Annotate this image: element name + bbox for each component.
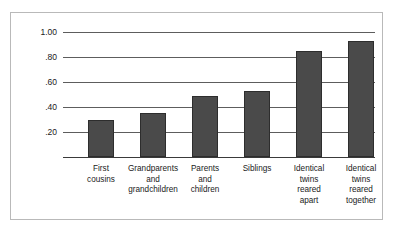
x-tick-line: children bbox=[174, 185, 236, 196]
bar-siblings bbox=[244, 91, 270, 157]
gridline-4 bbox=[63, 107, 375, 108]
y-tick-label-3: .60 bbox=[0, 78, 57, 87]
x-tick-line: and bbox=[174, 175, 236, 186]
bar-first-cousins bbox=[88, 120, 114, 158]
plot-area: 1.00 .80 .60 .40 .20 First cousins Grand… bbox=[63, 32, 375, 157]
x-tick-line: together bbox=[330, 196, 392, 207]
x-tick-line: twins bbox=[330, 175, 392, 186]
chart-figure: Correlation in I.Q. 1.00 .80 .60 .40 .20… bbox=[0, 0, 394, 233]
y-tick-label-1: 1.00 bbox=[0, 28, 57, 37]
x-tick-label-identical-twins-reared-together: Identical twins reared together bbox=[330, 164, 392, 206]
bar-grandparents-and-grandchildren bbox=[140, 113, 166, 157]
x-axis-baseline bbox=[63, 157, 375, 158]
x-tick-line: Identical bbox=[330, 164, 392, 175]
y-tick-label-2: .80 bbox=[0, 53, 57, 62]
bar-identical-twins-reared-together bbox=[348, 41, 374, 157]
bar-parents-and-children bbox=[192, 96, 218, 157]
x-tick-line: reared bbox=[330, 185, 392, 196]
gridline-1 bbox=[63, 32, 375, 33]
gridline-3 bbox=[63, 82, 375, 83]
gridline-2 bbox=[63, 57, 375, 58]
bar-identical-twins-reared-apart bbox=[296, 51, 322, 157]
y-tick-label-5: .20 bbox=[0, 128, 57, 137]
y-tick-label-4: .40 bbox=[0, 103, 57, 112]
